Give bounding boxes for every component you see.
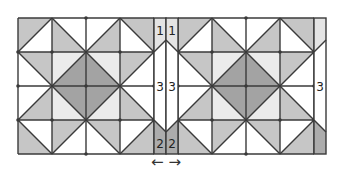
vertex-dot — [50, 50, 54, 54]
quilt-diagram: 1133223 ← → — [0, 0, 345, 170]
vertex-dot — [210, 118, 214, 122]
vertex-dot — [84, 84, 88, 88]
vertex-dot — [118, 50, 122, 54]
vertex-dot — [16, 84, 20, 88]
vertex-dot — [84, 152, 88, 156]
vertex-dot — [210, 50, 214, 54]
vertex-dot — [278, 118, 282, 122]
left-block — [16, 16, 156, 156]
vertex-dot — [244, 16, 248, 20]
label-2-left: 2 — [156, 137, 164, 151]
right-block — [176, 16, 316, 156]
vertex-dot — [16, 118, 20, 122]
label-3-left: 3 — [156, 80, 164, 94]
label-2-right: 2 — [168, 137, 176, 151]
label-3-edge: 3 — [316, 80, 324, 94]
vertex-dot — [50, 118, 54, 122]
label-1-left: 1 — [156, 24, 164, 38]
vertex-dot — [278, 50, 282, 54]
label-3-right: 3 — [168, 80, 176, 94]
label-1-right: 1 — [168, 24, 176, 38]
direction-arrows: ← → — [151, 153, 181, 170]
vertex-dot — [244, 152, 248, 156]
vertex-dot — [118, 118, 122, 122]
vertex-dot — [244, 84, 248, 88]
vertex-dot — [84, 16, 88, 20]
vertex-dot — [16, 50, 20, 54]
